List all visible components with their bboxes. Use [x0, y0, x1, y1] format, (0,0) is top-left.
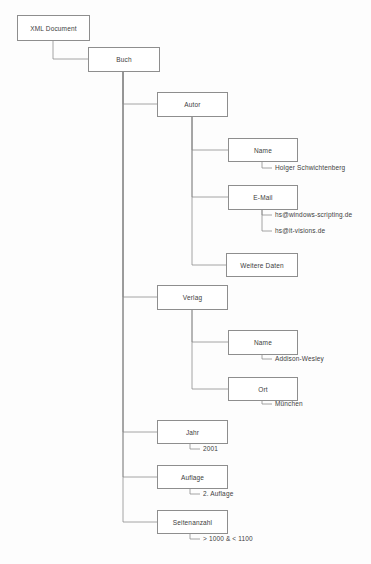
- leaf-value-v_seiten: > 1000 & < 1100: [203, 535, 253, 543]
- node-autor[interactable]: Autor: [157, 92, 228, 117]
- node-verlag_name[interactable]: Name: [228, 330, 298, 355]
- edge-seiten-to-v_seiten: [190, 534, 200, 539]
- edge-ort-to-v_ort: [262, 401, 272, 404]
- xml-document-tree-diagram: XML DocumentBuchAutorNameE-MailWeitere D…: [0, 0, 371, 564]
- leaf-value-v_email_1: hs@windows-scripting.de: [275, 211, 352, 219]
- edge-verlag-to-ort: [192, 310, 228, 389]
- edge-verlag_name-to-v_verlag_name: [262, 355, 272, 359]
- node-root[interactable]: XML Document: [17, 15, 90, 41]
- node-verlag[interactable]: Verlag: [157, 285, 228, 310]
- node-seiten[interactable]: Seitenanzahl: [157, 510, 228, 534]
- edge-buch-to-jahr: [123, 72, 157, 432]
- node-auflage[interactable]: Auflage: [157, 465, 228, 489]
- node-autor_name[interactable]: Name: [228, 138, 298, 162]
- leaf-value-v_auflage: 2. Auflage: [203, 490, 233, 498]
- edge-root-to-buch: [53, 41, 88, 59]
- node-weitere[interactable]: Weitere Daten: [226, 253, 298, 277]
- leaf-value-v_verlag_name: Addison-Wesley: [275, 355, 324, 363]
- edge-buch-to-verlag: [123, 72, 157, 297]
- node-jahr[interactable]: Jahr: [157, 420, 228, 444]
- edge-autor-to-email: [192, 117, 228, 197]
- edge-verlag-to-verlag_name: [192, 310, 228, 342]
- edge-autor_name-to-v_autor_name: [262, 162, 272, 168]
- node-ort[interactable]: Ort: [228, 377, 298, 401]
- edge-buch-to-auflage: [123, 72, 157, 477]
- edge-jahr-to-v_jahr: [190, 444, 200, 449]
- node-email[interactable]: E-Mail: [228, 185, 298, 210]
- edge-buch-to-autor: [123, 72, 157, 104]
- leaf-value-v_autor_name: Holger Schwichtenberg: [275, 164, 345, 172]
- edge-autor-to-autor_name: [192, 117, 228, 150]
- edge-autor-to-weitere: [192, 117, 226, 265]
- leaf-value-v_jahr: 2001: [203, 445, 218, 453]
- edge-email-to-v_email_1: [262, 210, 272, 215]
- leaf-value-v_email_2: hs@it-visions.de: [275, 227, 325, 235]
- leaf-value-v_ort: München: [275, 400, 303, 408]
- node-buch[interactable]: Buch: [88, 47, 160, 72]
- edge-auflage-to-v_auflage: [190, 489, 200, 494]
- edge-email-to-v_email_2: [262, 210, 272, 231]
